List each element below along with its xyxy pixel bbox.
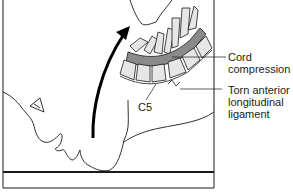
motion-arrow-icon	[93, 26, 130, 138]
c5-vertebra-label: C5	[138, 101, 152, 113]
spine-illustration	[120, 6, 212, 86]
cord-compression-label: Cord compression	[228, 51, 290, 75]
torn-ligament-label: Torn anterior longitudinal ligament	[228, 84, 290, 120]
